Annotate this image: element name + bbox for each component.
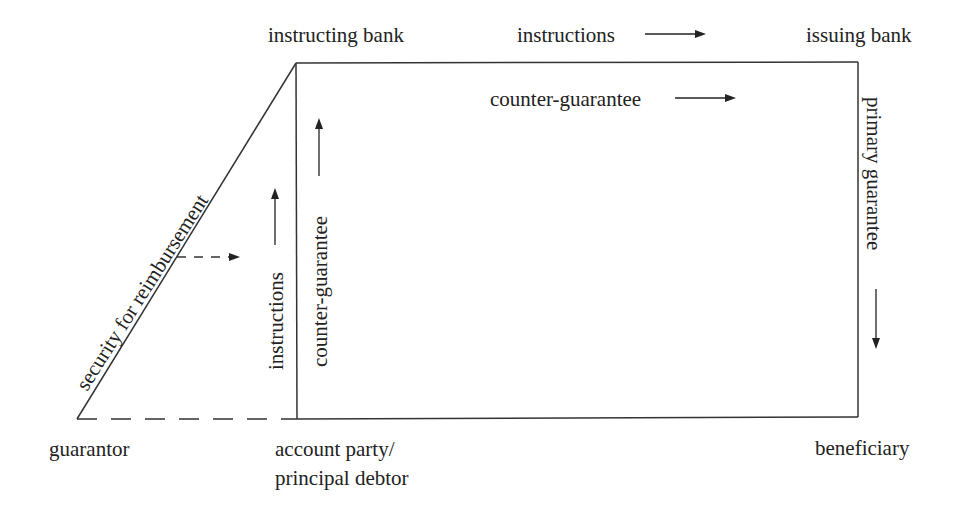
node-instructing-bank: instructing bank [268,23,404,47]
edge-instructing-to-issuing [296,62,858,63]
label-top-counter-guarantee: counter-guarantee [490,87,641,111]
arrow-up-icon [315,118,323,176]
edge-account-party-to-instructing [296,63,297,419]
arrow-down-icon [872,289,880,349]
guarantee-structure-diagram: instructing bank instructions issuing ba… [0,0,972,518]
node-issuing-bank: issuing bank [806,23,912,47]
node-beneficiary: beneficiary [815,436,910,460]
label-right-primary-guarantee: primary guarantee [862,97,886,250]
node-account-party-line1: account party/ [275,437,395,461]
arrow-up-icon [271,188,279,245]
arrow-right-icon [645,30,706,38]
node-account-party-line2: principal debtor [275,466,409,490]
arrow-right-icon [675,94,736,102]
label-left-counter-guarantee: counter-guarantee [308,216,332,367]
label-left-instructions: instructions [264,272,288,370]
edge-account-party-to-beneficiary [297,417,858,419]
dashed-arrow-icon [177,253,240,261]
label-top-instructions: instructions [517,23,615,47]
label-security-for-reimbursement: security for reimbursement [71,190,213,395]
node-guarantor: guarantor [49,437,129,461]
